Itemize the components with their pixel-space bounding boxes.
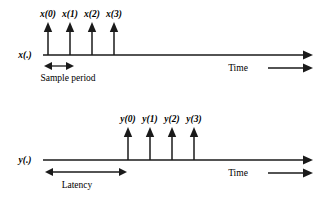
bottom-time-axis-arrowhead: [303, 156, 313, 165]
bottom-stem-2-arrowhead: [168, 127, 176, 137]
top-time-label: Time: [228, 63, 248, 73]
bottom-sample-label-3: y(3): [185, 114, 201, 125]
top-sample-label-3: x(3): [105, 9, 122, 20]
diagram-canvas: x(.) x(0) x(1) x(2) x(3): [0, 0, 323, 197]
bottom-stem-0-arrowhead: [124, 127, 132, 137]
top-stem-1-arrowhead: [66, 22, 74, 32]
bottom-time-label: Time: [228, 168, 248, 178]
bottom-sample-label-2: y(2): [163, 114, 179, 125]
top-stem-0-arrowhead: [44, 22, 52, 32]
bottom-axis-group: y(.) y(0) y(1) y(2) y(3): [18, 114, 313, 190]
sample-period-label: Sample period: [40, 73, 95, 83]
bottom-stem-3-arrowhead: [190, 127, 198, 137]
top-time-axis-arrowhead: [303, 51, 313, 60]
top-sample-stems: [44, 22, 118, 55]
bottom-sample-label-1: y(1): [141, 114, 157, 125]
latency-left-arrowhead: [45, 168, 53, 176]
top-sample-label-2: x(2): [83, 9, 100, 20]
top-sample-label-0: x(0): [39, 9, 56, 20]
bottom-time-indicator-arrowhead: [303, 169, 313, 178]
top-signal-name-label: x(.): [17, 50, 31, 61]
signal-timing-diagram: x(.) x(0) x(1) x(2) x(3): [0, 0, 323, 197]
bottom-sample-label-0: y(0): [119, 114, 135, 125]
bottom-signal-name-label: y(.): [18, 155, 32, 166]
sample-period-left-arrowhead: [44, 62, 52, 70]
top-axis-group: x(.) x(0) x(1) x(2) x(3): [17, 9, 313, 83]
bottom-stem-1-arrowhead: [146, 127, 154, 137]
latency-label: Latency: [62, 180, 93, 190]
latency-right-arrowhead: [119, 168, 127, 176]
sample-period-right-arrowhead: [66, 62, 74, 70]
bottom-sample-stems: [124, 127, 198, 160]
latency-dimension: [45, 168, 127, 176]
sample-period-dimension: [44, 62, 74, 70]
top-stem-3-arrowhead: [110, 22, 118, 32]
top-stem-2-arrowhead: [88, 22, 96, 32]
top-sample-label-1: x(1): [61, 9, 78, 20]
top-time-indicator-arrowhead: [303, 64, 313, 73]
